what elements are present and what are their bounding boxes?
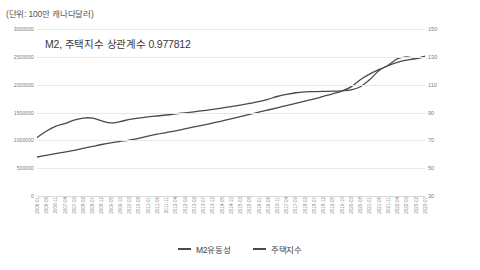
legend-swatch-icon bbox=[178, 248, 191, 250]
x-axis-tick-label: 2008-07 bbox=[90, 197, 95, 214]
chart-title: M2, 주택지수 상관계수 0.977812 bbox=[45, 36, 191, 51]
plot-area: M2, 주택지수 상관계수 0.977812 bbox=[37, 29, 425, 196]
x-axis-tick-label: 2022-09 bbox=[404, 197, 409, 214]
x-axis-tick-label: 2007-04 bbox=[63, 197, 68, 214]
y-axis-right-tick-label: 90 bbox=[428, 110, 434, 116]
x-axis-tick-label: 2016-11 bbox=[275, 197, 280, 214]
y-axis-right-tick-label: 50 bbox=[428, 165, 434, 171]
x-axis-tick-label: 2008-12 bbox=[99, 197, 104, 214]
x-axis-tick-label: 2012-09 bbox=[183, 197, 188, 214]
x-axis-tick-label: 2020-03 bbox=[349, 197, 354, 214]
x-axis-tick-label: 2011-06 bbox=[155, 197, 160, 214]
grid-line bbox=[37, 85, 425, 86]
grid-line bbox=[37, 140, 425, 141]
x-axis-tick-label: 2018-02 bbox=[303, 197, 308, 214]
page-bottom-strip bbox=[0, 262, 480, 270]
x-axis-tick-label: 2008-02 bbox=[81, 197, 86, 214]
x-axis-tick-label: 2021-06 bbox=[377, 197, 382, 214]
chart-legend: M2유동성 주택지수 bbox=[0, 243, 480, 255]
x-axis-tick-label: 2013-07 bbox=[201, 197, 206, 214]
x-axis-tick-label: 2015-03 bbox=[238, 197, 243, 214]
legend-label: 주택지수 bbox=[271, 243, 302, 255]
x-axis-tick-label: 2014-10 bbox=[229, 197, 234, 214]
x-axis-tick-label: 2006-01 bbox=[35, 197, 40, 214]
y-axis-right-tick-label: 110 bbox=[428, 82, 437, 88]
x-axis-tick-label: 2013-02 bbox=[192, 197, 197, 214]
y-axis-right: 15013011090705030 bbox=[428, 29, 458, 196]
x-axis-tick-label: 2010-08 bbox=[136, 197, 141, 214]
unit-note-label: (단위: 100만 캐나다달러) bbox=[6, 7, 94, 19]
x-axis-tick-label: 2006-11 bbox=[53, 197, 58, 214]
y-axis-left-tick-label: 500000 bbox=[17, 165, 34, 171]
x-axis-tick-label: 2018-07 bbox=[312, 197, 317, 214]
y-axis-left-tick-label: 3000000 bbox=[14, 26, 34, 32]
x-axis-tick-label: 2020-08 bbox=[358, 197, 363, 214]
x-axis-tick-label: 2022-04 bbox=[395, 197, 400, 214]
y-axis-right-tick-label: 150 bbox=[428, 26, 437, 32]
x-axis-tick-label: 2018-12 bbox=[321, 197, 326, 214]
legend-swatch-icon bbox=[253, 248, 266, 250]
legend-item-housing[interactable]: 주택지수 bbox=[253, 243, 302, 255]
x-axis-tick-label: 2016-06 bbox=[266, 197, 271, 214]
x-axis-tick-label: 2017-09 bbox=[293, 197, 298, 214]
grid-line bbox=[37, 113, 425, 114]
grid-line bbox=[37, 57, 425, 58]
x-axis-tick-label: 2023-07 bbox=[423, 197, 428, 214]
legend-item-m2[interactable]: M2유동성 bbox=[178, 243, 231, 255]
x-axis-tick-label: 2010-03 bbox=[127, 197, 132, 214]
grid-line bbox=[37, 168, 425, 169]
chart-container: (단위: 100만 캐나다달러) 30000002500000200000015… bbox=[0, 0, 480, 270]
x-axis-tick-label: 2013-12 bbox=[210, 197, 215, 214]
x-axis-tick-label: 2009-10 bbox=[118, 197, 123, 214]
y-axis-left-tick-label: 2000000 bbox=[14, 82, 34, 88]
legend-label: M2유동성 bbox=[196, 243, 231, 255]
x-axis-tick-label: 2021-01 bbox=[367, 197, 372, 214]
y-axis-left: 3000000250000020000001500000100000050000… bbox=[0, 29, 34, 196]
y-axis-right-tick-label: 30 bbox=[428, 193, 434, 199]
x-axis-tick-label: 2019-05 bbox=[330, 197, 335, 214]
x-axis-tick-label: 2019-10 bbox=[340, 197, 345, 214]
y-axis-left-tick-label: 0 bbox=[31, 193, 34, 199]
x-axis-tick-label: 2015-08 bbox=[247, 197, 252, 214]
y-axis-left-tick-label: 1000000 bbox=[14, 137, 34, 143]
y-axis-right-tick-label: 130 bbox=[428, 54, 437, 60]
x-axis-tick-label: 2007-09 bbox=[72, 197, 77, 214]
x-axis-tick-label: 2012-04 bbox=[173, 197, 178, 214]
y-axis-right-tick-label: 70 bbox=[428, 137, 434, 143]
x-axis-tick-label: 2023-02 bbox=[414, 197, 419, 214]
x-axis-tick-label: 2009-05 bbox=[109, 197, 114, 214]
x-axis-tick-label: 2017-04 bbox=[284, 197, 289, 214]
x-axis-tick-label: 2006-06 bbox=[44, 197, 49, 214]
y-axis-left-tick-label: 2500000 bbox=[14, 54, 34, 60]
y-axis-left-tick-label: 1500000 bbox=[14, 110, 34, 116]
series-line-housing bbox=[37, 56, 425, 137]
x-axis-tick-label: 2011-01 bbox=[146, 197, 151, 214]
x-axis-tick-label: 2021-11 bbox=[386, 197, 391, 214]
x-axis-tick-label: 2014-05 bbox=[220, 197, 225, 214]
x-axis-tick-label: 2011-11 bbox=[164, 197, 169, 213]
grid-line bbox=[37, 29, 425, 30]
x-axis-tick-label: 2016-01 bbox=[257, 197, 262, 214]
x-axis: 2006-012006-062006-112007-042007-092008-… bbox=[37, 197, 425, 237]
